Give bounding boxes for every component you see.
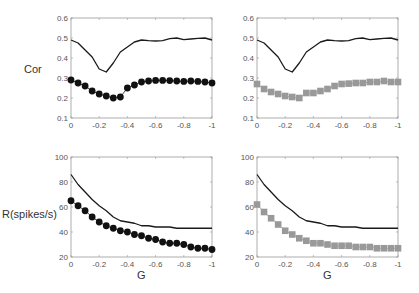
- square-marker: [282, 93, 289, 100]
- square-marker: [289, 231, 296, 238]
- series-line: [257, 175, 398, 229]
- panel-bottom-left: 0-0.2-0.4-0.6-0.8-120406080100: [55, 153, 216, 269]
- y-tick-label: 40: [245, 228, 254, 237]
- square-marker: [345, 242, 352, 249]
- panel-top-right: 0-0.2-0.4-0.6-0.8-10.10.20.30.40.50.6: [243, 14, 402, 130]
- circle-marker: [82, 207, 89, 214]
- x-tick-label: 0: [255, 260, 260, 269]
- y-tick-label: 20: [59, 253, 68, 262]
- series-line: [71, 38, 212, 72]
- circle-marker: [138, 79, 145, 86]
- y-tick-label: 60: [245, 203, 254, 212]
- ylabel-cor: Cor: [24, 63, 42, 75]
- circle-marker: [131, 231, 138, 238]
- y-tick-label: 0.6: [243, 14, 255, 23]
- x-tick-label: -0.6: [149, 121, 163, 130]
- y-tick-label: 0.6: [57, 14, 69, 23]
- x-tick-label: -0.4: [307, 260, 321, 269]
- y-tick-label: 80: [245, 178, 254, 187]
- axes-frame: [257, 18, 398, 118]
- square-marker: [282, 227, 289, 234]
- y-tick-label: 0.1: [57, 114, 69, 123]
- x-tick-label: 0: [69, 121, 74, 130]
- square-marker: [331, 242, 338, 249]
- circle-marker: [209, 246, 216, 253]
- figure: 0-0.2-0.4-0.6-0.8-10.10.20.30.40.50.60-0…: [0, 0, 419, 293]
- series-line: [257, 38, 398, 72]
- circle-marker: [75, 202, 82, 209]
- circle-marker: [124, 85, 131, 92]
- x-tick-label: 0: [69, 260, 74, 269]
- x-tick-label: -0.2: [278, 121, 292, 130]
- square-marker: [381, 78, 388, 85]
- x-tick-label: -0.8: [177, 260, 191, 269]
- square-marker: [296, 235, 303, 242]
- circle-marker: [75, 80, 82, 87]
- square-marker: [374, 245, 381, 252]
- circle-marker: [145, 78, 152, 85]
- square-marker: [296, 95, 303, 102]
- circle-marker: [187, 244, 194, 251]
- x-tick-label: -0.8: [363, 260, 377, 269]
- circle-marker: [117, 227, 124, 234]
- circle-marker: [159, 239, 166, 246]
- circle-marker: [96, 91, 103, 98]
- square-marker: [331, 83, 338, 90]
- square-marker: [303, 237, 310, 244]
- square-marker: [303, 90, 310, 97]
- x-tick-label: -0.6: [335, 260, 349, 269]
- x-tick-label: -0.4: [307, 121, 321, 130]
- y-tick-label: 0.3: [243, 74, 255, 83]
- square-marker: [324, 86, 331, 93]
- circle-marker: [180, 78, 187, 85]
- x-tick-label: -0.4: [121, 121, 135, 130]
- x-tick-label: -0.2: [278, 260, 292, 269]
- circle-marker: [145, 235, 152, 242]
- square-marker: [374, 79, 381, 86]
- y-tick-label: 100: [241, 153, 255, 162]
- square-marker: [261, 86, 268, 93]
- x-tick-label: -0.6: [335, 121, 349, 130]
- x-tick-label: -0.8: [177, 121, 191, 130]
- square-marker: [275, 91, 282, 98]
- square-marker: [289, 94, 296, 101]
- x-tick-label: -0.4: [121, 260, 135, 269]
- circle-marker: [103, 93, 110, 100]
- circle-marker: [124, 229, 131, 236]
- square-marker: [324, 241, 331, 248]
- circle-marker: [195, 78, 202, 85]
- y-tick-label: 60: [59, 203, 68, 212]
- square-marker: [268, 215, 275, 222]
- axes-frame: [71, 157, 212, 257]
- circle-marker: [89, 88, 96, 95]
- circle-marker: [166, 240, 173, 247]
- axes-frame: [71, 18, 212, 118]
- square-marker: [338, 81, 345, 88]
- circle-marker: [82, 83, 89, 90]
- xlabel-g-left: G: [137, 269, 146, 281]
- y-tick-label: 0.3: [57, 74, 69, 83]
- ylabel-rate: R(spikes/s): [2, 208, 57, 220]
- square-marker: [254, 201, 261, 208]
- y-tick-label: 0.1: [243, 114, 255, 123]
- y-tick-label: 40: [59, 228, 68, 237]
- circle-marker: [152, 77, 159, 84]
- y-tick-label: 0.4: [57, 54, 69, 63]
- circle-marker: [173, 78, 180, 85]
- square-marker: [268, 89, 275, 96]
- square-marker: [367, 244, 374, 251]
- circle-marker: [138, 232, 145, 239]
- circle-marker: [103, 222, 110, 229]
- circle-marker: [110, 95, 117, 102]
- square-marker: [317, 240, 324, 247]
- circle-marker: [152, 236, 159, 243]
- circle-marker: [117, 94, 124, 101]
- square-marker: [345, 80, 352, 87]
- x-tick-label: -1: [208, 260, 216, 269]
- square-marker: [359, 80, 366, 87]
- square-marker: [359, 244, 366, 251]
- square-marker: [275, 221, 282, 228]
- x-tick-label: -1: [394, 121, 402, 130]
- square-marker: [352, 80, 359, 87]
- circle-marker: [110, 225, 117, 232]
